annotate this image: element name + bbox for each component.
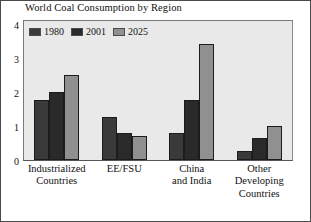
bar [237,151,252,160]
y-tick-label: 2 [14,88,19,99]
plot-area: 198020012025 [23,20,293,161]
bar [267,126,282,160]
chart-title: World Coal Consumption by Region [25,2,182,13]
y-tick-label: 0 [14,156,19,167]
y-tick-label: 3 [14,54,19,65]
bar [169,133,184,160]
bar [34,100,49,160]
bar [49,92,64,160]
x-axis: Industrialized CountriesEE/FSUChina and … [23,163,293,221]
y-tick-label: 4 [14,20,19,31]
bar [132,136,147,160]
bar [184,100,199,160]
bar [64,75,79,160]
bar [252,138,267,160]
bar [117,133,132,160]
y-tick-label: 1 [14,122,19,133]
y-axis: 01234 [1,1,23,222]
bar [102,117,117,160]
chart-figure: World Coal Consumption by Region 01234 1… [0,0,311,222]
x-category-label: Industrialized Countries [23,163,91,188]
bar [199,44,214,160]
x-category-label: China and India [158,163,226,188]
x-category-label: Other Developing Countries [226,163,294,200]
x-category-label: EE/FSU [91,163,159,175]
bars-layer [24,21,292,160]
